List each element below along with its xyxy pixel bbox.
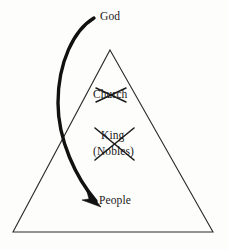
- label-nobles: (Nobles): [93, 146, 134, 158]
- label-people: People: [99, 195, 131, 207]
- label-church: Church: [93, 89, 127, 101]
- diagram-canvas: God Church King (Nobles) People: [0, 0, 228, 250]
- label-god: God: [100, 11, 120, 23]
- god-to-people-arrow-shaft: [58, 18, 96, 201]
- label-king: King: [101, 130, 124, 142]
- diagram-graphics-layer: [0, 0, 228, 250]
